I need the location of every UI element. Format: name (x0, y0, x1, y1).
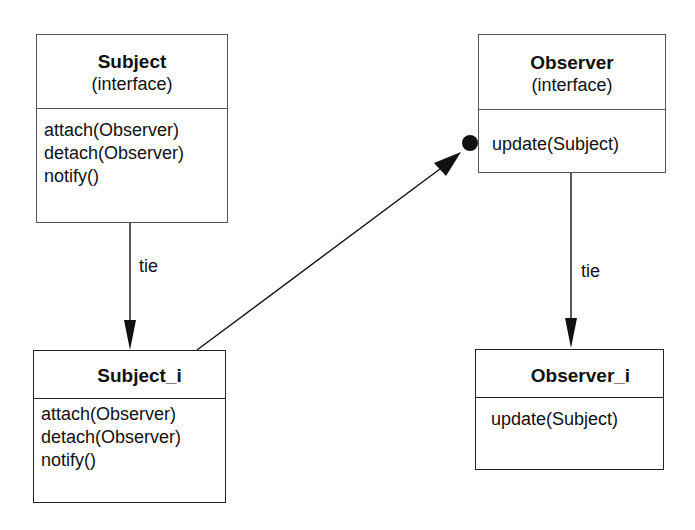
class-name: Subject (37, 51, 227, 73)
class-header: Observer (interface) (479, 35, 665, 110)
tie-edge-observer (565, 172, 577, 348)
method-item: attach(Observer) (44, 119, 223, 142)
method-item: update(Subject) (491, 408, 659, 431)
method-item: update(Subject) (492, 133, 661, 156)
association-edge-subject-i-to-observer (197, 135, 478, 350)
method-item: notify() (41, 449, 221, 472)
edge-label-tie-left: tie (139, 256, 158, 277)
class-subject-i[interactable]: Subject_i attach(Observer) detach(Observ… (33, 350, 226, 503)
method-list: update(Subject) (491, 408, 659, 431)
edge-label-tie-right: tie (581, 261, 600, 282)
class-header: Subject (interface) (37, 35, 227, 109)
method-list: attach(Observer) detach(Observer) notify… (41, 403, 221, 472)
method-item: detach(Observer) (41, 426, 221, 449)
class-stereotype: (interface) (479, 74, 665, 96)
class-name: Subject_i (54, 365, 225, 387)
class-observer-i[interactable]: Observer_i update(Subject) (475, 349, 664, 470)
dot-endpoint-icon (462, 135, 478, 151)
class-header: Subject_i (34, 351, 225, 399)
arrowhead-icon (565, 318, 577, 348)
method-list: update(Subject) (492, 133, 661, 156)
method-item: attach(Observer) (41, 403, 221, 426)
class-observer[interactable]: Observer (interface) update(Subject) (478, 34, 666, 173)
class-subject[interactable]: Subject (interface) attach(Observer) det… (36, 34, 228, 223)
class-name: Observer (479, 52, 665, 74)
arrowhead-icon (434, 152, 461, 176)
method-list: attach(Observer) detach(Observer) notify… (44, 119, 223, 188)
arrowhead-icon (124, 320, 136, 350)
class-header: Observer_i (476, 350, 663, 398)
method-item: detach(Observer) (44, 142, 223, 165)
tie-edge-subject (124, 222, 136, 350)
class-name: Observer_i (498, 365, 663, 387)
class-stereotype: (interface) (37, 73, 227, 95)
method-item: notify() (44, 165, 223, 188)
